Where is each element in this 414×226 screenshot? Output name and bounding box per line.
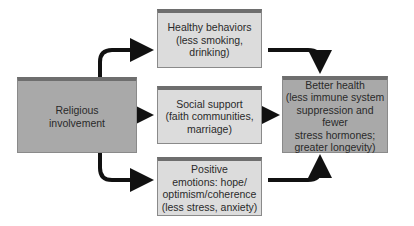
arrow-religious-to-healthy (100, 50, 146, 77)
node-healthy-behaviors: Healthy behaviors (less smoking, drinkin… (157, 9, 262, 68)
node-religious-involvement: Religious involvement (17, 77, 137, 153)
node-positive-emotions: Positive emotions: hope/ optimism/cohere… (157, 157, 262, 216)
node-label: Positive emotions: hope/ optimism/cohere… (162, 163, 258, 213)
node-label: Religious involvement (49, 104, 105, 129)
arrow-positive-to-outcome (268, 162, 320, 180)
arrow-healthy-to-outcome (268, 50, 320, 66)
arrow-religious-to-positive (100, 153, 146, 180)
node-better-health: Better health (less immune system suppre… (282, 76, 388, 153)
node-label: Better health (less immune system suppre… (283, 79, 387, 154)
node-social-support: Social support (faith communities, marri… (157, 86, 262, 144)
node-label: Social support (faith communities, marri… (165, 98, 253, 136)
node-label: Healthy behaviors (less smoking, drinkin… (167, 21, 251, 59)
